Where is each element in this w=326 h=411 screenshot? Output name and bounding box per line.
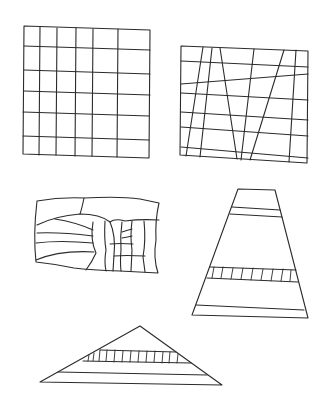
hatch-line — [106, 350, 107, 361]
hatch-line — [114, 350, 115, 362]
blob-line — [110, 222, 115, 271]
skewed-slant — [241, 49, 254, 160]
hatch-line — [212, 267, 214, 278]
trapezoid-band-line — [232, 207, 280, 210]
triangle-band-line — [58, 372, 207, 375]
blob-line — [143, 221, 145, 272]
skewed-slant — [250, 50, 284, 160]
blob-line — [114, 256, 145, 257]
irregular-blob — [35, 197, 159, 273]
hatch-line — [261, 269, 263, 280]
figure-svg — [0, 0, 326, 411]
hatch-line — [93, 353, 94, 361]
hatch-line — [281, 269, 283, 281]
skewed-hline — [181, 112, 308, 120]
blob-line — [36, 242, 93, 244]
trapezoid-band-line — [230, 214, 282, 217]
hatch-line — [169, 352, 170, 363]
grid-hline — [23, 136, 149, 140]
trapezoid — [192, 189, 308, 318]
blob-line — [55, 219, 93, 230]
skewed-slant — [220, 48, 237, 159]
blob-line — [105, 221, 106, 271]
grid-hline — [24, 70, 150, 74]
hatch-line — [138, 351, 139, 362]
skewed-grid — [180, 46, 308, 163]
drawing-canvas — [0, 0, 326, 411]
hatch-line — [241, 268, 243, 279]
grid-hline — [23, 112, 149, 116]
hatch-line — [221, 267, 223, 278]
hatch-line — [251, 268, 253, 280]
skewed-hline — [181, 93, 308, 100]
hatch-line — [122, 351, 123, 362]
skewed-hline — [181, 74, 308, 84]
blob-outline — [35, 197, 159, 273]
hatch-line — [231, 268, 233, 279]
blob-line — [37, 233, 93, 236]
blob-line — [110, 244, 133, 245]
skewed-slant — [186, 47, 203, 156]
grid-hline — [24, 46, 150, 50]
triangle-band-line — [100, 350, 176, 352]
hatch-line — [99, 350, 100, 361]
hatch-line — [130, 351, 131, 362]
blob-line — [36, 252, 94, 260]
hatch-line — [271, 269, 273, 281]
trapezoid-band-line — [196, 305, 304, 310]
blob-line — [80, 198, 84, 214]
hatch-line — [88, 355, 89, 361]
grid-hline — [24, 91, 150, 95]
grid-square — [23, 26, 150, 158]
triangle — [40, 326, 222, 385]
grid-vline — [117, 29, 118, 157]
skewed-slant — [200, 48, 212, 157]
hatch-line — [177, 354, 178, 363]
hatch-line — [290, 270, 291, 281]
blob-line — [121, 222, 123, 271]
hatch-line — [154, 351, 155, 362]
blob-line — [122, 229, 132, 232]
hatch-line — [146, 351, 147, 362]
trapezoid-band-line — [207, 278, 298, 282]
hatch-line — [162, 352, 163, 363]
